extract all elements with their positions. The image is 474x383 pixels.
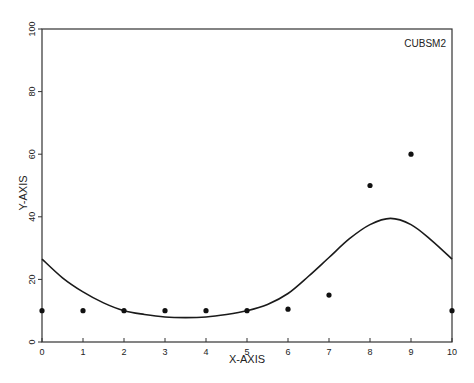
x-tick-label: 0 [39,347,44,357]
smoothing-curve [42,218,452,317]
chart-annotation: CUBSM2 [404,38,446,49]
data-points [39,152,454,314]
x-tick-label: 3 [162,347,167,357]
data-point [326,292,331,297]
x-tick-label: 2 [121,347,126,357]
y-tick-label: 0 [27,339,37,344]
chart: 012345678910 020406080100 CUBSM2 X-AXIS … [0,0,474,383]
x-tick-label: 7 [326,347,331,357]
y-tick-label: 100 [27,21,37,36]
x-tick-label: 8 [367,347,372,357]
x-tick-label: 4 [203,347,208,357]
y-tick-label: 60 [27,149,37,159]
x-tick-label: 9 [408,347,413,357]
y-axis-ticks: 020406080100 [27,21,42,344]
y-tick-label: 40 [27,212,37,222]
data-point [285,307,290,312]
data-point [449,308,454,313]
y-tick-label: 20 [27,274,37,284]
x-axis-title: X-AXIS [229,353,265,365]
data-point [408,152,413,157]
x-tick-label: 6 [285,347,290,357]
y-tick-label: 80 [27,87,37,97]
y-axis-title: Y-AXIS [17,175,29,210]
data-point [39,308,44,313]
data-point [367,183,372,188]
x-tick-label: 1 [80,347,85,357]
data-point [203,308,208,313]
data-point [121,308,126,313]
data-point [244,308,249,313]
x-tick-label: 10 [447,347,457,357]
data-point [162,308,167,313]
plot-frame [42,29,452,342]
data-point [80,308,85,313]
